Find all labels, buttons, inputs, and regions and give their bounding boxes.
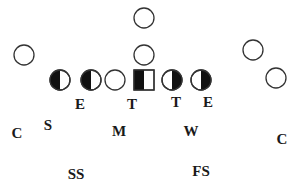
player-deep-back-icon <box>134 8 154 28</box>
defense-group: ETTESCMWCSSFS <box>12 94 288 182</box>
player-lg-icon <box>81 70 101 90</box>
player-lt-icon <box>50 70 70 90</box>
defender-label-e: E <box>75 96 85 112</box>
offense-group <box>14 8 286 90</box>
player-te-gap-icon <box>105 70 125 90</box>
defender-label-fs: FS <box>192 163 210 179</box>
defender-label-w: W <box>184 123 199 139</box>
player-center-icon <box>134 70 154 90</box>
player-wide-right-icon <box>266 68 286 88</box>
defender-label-c: C <box>12 125 23 141</box>
defender-label-ss: SS <box>68 166 85 182</box>
player-wide-left-icon <box>14 45 34 65</box>
player-wing-right-icon <box>243 40 263 60</box>
defender-label-t: T <box>171 94 181 110</box>
player-rt-icon <box>191 70 211 90</box>
defender-label-s: S <box>44 117 52 133</box>
defender-label-m: M <box>112 123 126 139</box>
defender-label-t: T <box>127 96 137 112</box>
defender-label-c: C <box>277 131 288 147</box>
player-rg-icon <box>162 70 182 90</box>
formation-diagram: ETTESCMWCSSFS <box>0 0 293 191</box>
defender-label-e: E <box>203 94 213 110</box>
player-qb-icon <box>134 45 154 65</box>
